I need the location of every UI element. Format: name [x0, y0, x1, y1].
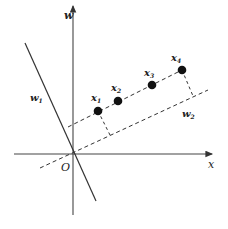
- x2-label: x2: [110, 82, 121, 94]
- x-axis-label: x: [208, 158, 215, 171]
- projection-diagram: w x O w1 w2 x1 x2 x3 x4: [0, 0, 228, 229]
- w2-label: w2: [182, 108, 195, 120]
- origin-label: O: [61, 161, 70, 174]
- x1-label: x1: [90, 92, 101, 104]
- w1-line: [25, 43, 96, 201]
- w2-line-dashed: [40, 90, 208, 168]
- point-x3: [148, 81, 157, 90]
- w1-label: w1: [30, 92, 43, 104]
- x3-label: x3: [143, 67, 154, 79]
- y-axis-label: w: [64, 9, 74, 22]
- point-x1: [94, 107, 103, 116]
- point-x4: [178, 66, 187, 75]
- point-x2: [114, 97, 123, 106]
- data-line-dashed: [68, 70, 182, 127]
- x4-label: x4: [170, 52, 181, 64]
